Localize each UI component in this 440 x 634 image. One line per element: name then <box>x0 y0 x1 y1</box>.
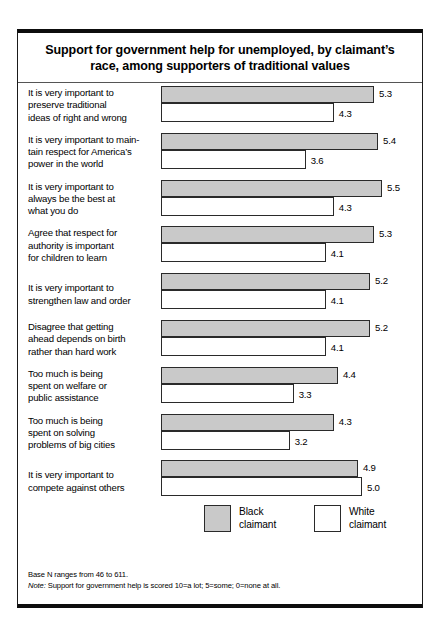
legend-label-white-line2: claimant <box>349 519 386 530</box>
chart-row-label-line: Agree that respect for <box>28 227 159 239</box>
legend-label-white-claimant: White claimant <box>349 506 386 531</box>
chart-row: Agree that respect forauthority is impor… <box>18 226 422 270</box>
title-block: Support for government help for unemploy… <box>18 33 422 83</box>
chart-row-label-line: Too much is being <box>28 415 159 427</box>
bar-black-claimant <box>161 320 370 337</box>
chart-row-label-line: public assistance <box>28 392 159 404</box>
chart-row-label: It is very important toalways be the bes… <box>28 181 159 218</box>
legend-label-black-line2: claimant <box>239 519 276 530</box>
note-scoring: Note: Support for government help is sco… <box>28 580 410 592</box>
chart-legend: Black claimant White claimant <box>18 499 422 547</box>
chart-row-label: It is very important tocompete against o… <box>28 469 159 494</box>
bar-white-claimant <box>161 103 334 122</box>
bar-value-black-claimant: 5.3 <box>379 88 392 99</box>
bar-value-black-claimant: 4.3 <box>339 416 352 427</box>
bar-value-white-claimant: 5.0 <box>367 482 380 493</box>
bar-value-white-claimant: 4.3 <box>339 202 352 213</box>
chart-row-label-line: Disagree that getting <box>28 321 159 333</box>
bar-value-black-claimant: 5.4 <box>383 135 396 146</box>
chart-row-label-line: strengthen law and order <box>28 295 159 307</box>
chart-row: Too much is beingspent on welfare orpubl… <box>18 367 422 411</box>
chart-row-label-line: spent on solving <box>28 427 159 439</box>
chart-row-label-line: what you do <box>28 205 159 217</box>
chart-plot-area: It is very important topreserve traditio… <box>18 83 422 499</box>
bar-value-black-claimant: 5.2 <box>375 275 388 286</box>
bar-white-claimant <box>161 197 334 216</box>
bar-white-claimant <box>161 290 326 309</box>
chart-row-label: It is very important topreserve traditio… <box>28 87 159 124</box>
bar-value-white-claimant: 3.2 <box>295 436 308 447</box>
figure-frame: Support for government help for unemploy… <box>17 29 423 608</box>
bar-white-claimant <box>161 477 362 496</box>
bar-black-claimant <box>161 414 334 431</box>
chart-row-label-line: problems of big cities <box>28 439 159 451</box>
bar-black-claimant <box>161 86 374 103</box>
legend-label-black-line1: Black <box>239 506 263 517</box>
chart-row-label-line: for children to learn <box>28 252 159 264</box>
chart-row-label-line: It is very important to main- <box>28 134 159 146</box>
chart-row-label-line: always be the best at <box>28 193 159 205</box>
chart-row: It is very important topreserve traditio… <box>18 86 422 130</box>
bar-black-claimant <box>161 367 338 384</box>
chart-row: It is very important tostrengthen law an… <box>18 273 422 317</box>
chart-row: Too much is beingspent on solvingproblem… <box>18 414 422 458</box>
legend-item-white-claimant: White claimant <box>314 505 386 532</box>
chart-row-label-line: preserve traditional <box>28 99 159 111</box>
chart-row-label: It is very important tostrengthen law an… <box>28 282 159 307</box>
chart-row: It is very important to main-tain respec… <box>18 133 422 177</box>
bar-black-claimant <box>161 226 374 243</box>
bar-value-white-claimant: 4.1 <box>331 295 344 306</box>
bar-white-claimant <box>161 150 306 169</box>
chart-row-label-line: ideas of right and wrong <box>28 112 159 124</box>
bar-value-white-claimant: 4.1 <box>331 342 344 353</box>
note-scoring-text: Support for government help is scored 10… <box>46 581 281 590</box>
chart-row-label: Too much is beingspent on welfare orpubl… <box>28 368 159 405</box>
chart-row-label-line: compete against others <box>28 482 159 494</box>
chart-row: It is very important tocompete against o… <box>18 460 422 504</box>
legend-label-white-line1: White <box>349 506 375 517</box>
bar-value-white-claimant: 4.3 <box>339 108 352 119</box>
bar-value-black-claimant: 5.3 <box>379 228 392 239</box>
chart-row-label-line: It is very important to <box>28 469 159 481</box>
figure-notes: Base N ranges from 46 to 611. Note: Supp… <box>28 569 410 592</box>
chart-row-label-line: ahead depends on birth <box>28 333 159 345</box>
note-base-n: Base N ranges from 46 to 611. <box>28 569 410 581</box>
legend-swatch-black-claimant <box>204 505 231 532</box>
legend-label-black-claimant: Black claimant <box>239 506 276 531</box>
bar-black-claimant <box>161 133 378 150</box>
chart-row-label-line: spent on welfare or <box>28 380 159 392</box>
bar-white-claimant <box>161 243 326 262</box>
chart-row-label-line: It is very important to <box>28 282 159 294</box>
chart-row-label-line: tain respect for America’s <box>28 146 159 158</box>
chart-row-label-line: Too much is being <box>28 368 159 380</box>
chart-row-label-line: authority is important <box>28 240 159 252</box>
chart-row-label: Too much is beingspent on solvingproblem… <box>28 415 159 452</box>
chart-row-label-line: It is very important to <box>28 181 159 193</box>
bar-white-claimant <box>161 337 326 356</box>
chart-row-label-line: power in the world <box>28 158 159 170</box>
note-label: Note: <box>28 581 46 590</box>
chart-row-label: Disagree that gettingahead depends on bi… <box>28 321 159 358</box>
bar-value-black-claimant: 4.9 <box>363 462 376 473</box>
bar-value-white-claimant: 3.6 <box>311 155 324 166</box>
bar-white-claimant <box>161 384 294 403</box>
bar-value-white-claimant: 4.1 <box>331 248 344 259</box>
bar-value-black-claimant: 4.4 <box>343 369 356 380</box>
chart-row-label-line: rather than hard work <box>28 346 159 358</box>
chart-row: Disagree that gettingahead depends on bi… <box>18 320 422 364</box>
bar-black-claimant <box>161 273 370 290</box>
chart-row: It is very important toalways be the bes… <box>18 180 422 224</box>
chart-row-label: Agree that respect forauthority is impor… <box>28 227 159 264</box>
legend-item-black-claimant: Black claimant <box>204 505 276 532</box>
chart-row-label-line: It is very important to <box>28 87 159 99</box>
chart-row-label: It is very important to main-tain respec… <box>28 134 159 171</box>
legend-swatch-white-claimant <box>314 505 341 532</box>
bar-value-black-claimant: 5.5 <box>387 182 400 193</box>
bar-black-claimant <box>161 460 358 477</box>
bar-white-claimant <box>161 431 290 450</box>
bar-value-white-claimant: 3.3 <box>299 389 312 400</box>
page-title: Support for government help for unemploy… <box>34 42 406 74</box>
bar-value-black-claimant: 5.2 <box>375 322 388 333</box>
bar-black-claimant <box>161 180 382 197</box>
